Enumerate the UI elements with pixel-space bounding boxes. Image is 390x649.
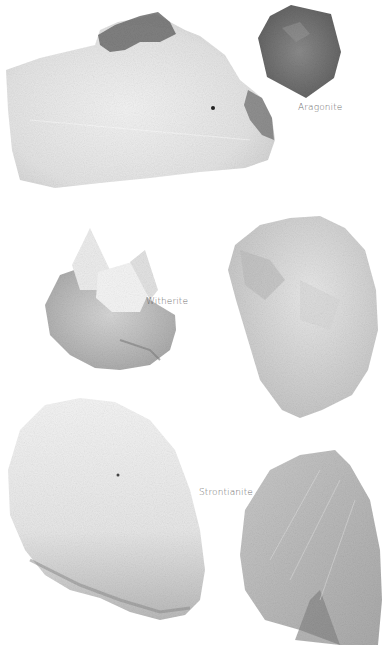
specimen-large-white: [6, 12, 275, 188]
specimen-aragonite: [258, 5, 341, 98]
specimen-strontianite: [8, 398, 205, 620]
specimen-fibrous-crystal: [240, 450, 382, 645]
label-witherite: Witherite: [146, 296, 188, 306]
label-aragonite: Aragonite: [298, 102, 342, 112]
label-strontianite: Strontianite: [199, 487, 253, 497]
specimen-illustrations: [0, 0, 390, 649]
specimen-crystal-mass: [228, 216, 378, 418]
mineral-plate: Aragonite Witherite Strontianite: [0, 0, 390, 649]
